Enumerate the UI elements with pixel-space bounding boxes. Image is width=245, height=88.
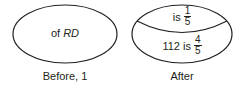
after-bottom-text: 112 is [162, 40, 191, 52]
before-caption: Before, 1 [35, 70, 95, 82]
after-top-text: is [173, 11, 181, 23]
after-top-denominator: 5 [184, 17, 192, 27]
before-ellipse-label: of RD [45, 27, 85, 39]
after-caption: After [160, 70, 204, 82]
before-label-italic: RD [63, 27, 79, 39]
after-bottom-fraction: 4 5 [194, 35, 202, 56]
after-top-label: is 1 5 [160, 6, 204, 27]
after-bottom-label: 112 is 4 5 [154, 35, 210, 56]
after-bottom-denominator: 5 [194, 46, 202, 56]
before-label-prefix: of [51, 27, 63, 39]
after-top-fraction: 1 5 [184, 6, 192, 27]
